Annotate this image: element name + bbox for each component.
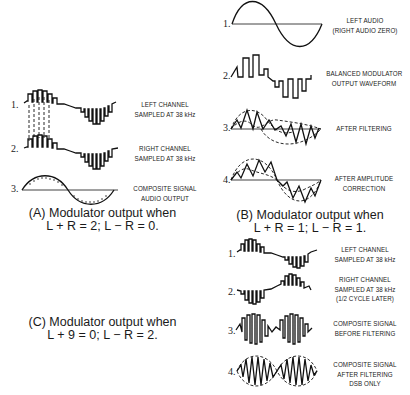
panel-c-row-2-label: RIGHT CHANNEL SAMPLED AT 38 kHz (1/2 CYC… <box>328 275 402 304</box>
panel-a-row-3-label: COMPOSITE SIGNAL AUDIO OUTPUT <box>128 184 202 203</box>
panel-b-amplitude-corrected-waveform <box>231 158 331 208</box>
panel-b-row-1-label-line2: (RIGHT AUDIO ZERO) <box>328 26 402 36</box>
panel-b-row-4-number: 4. <box>223 174 231 185</box>
panel-b-row-4-label-line2: CORRECTION <box>326 184 401 194</box>
panel-c-row-3-label-line2: BEFORE FILTERING <box>328 329 402 339</box>
panel-a-row-3-number: 3. <box>11 183 19 194</box>
panel-b-left-audio-waveform <box>232 0 332 50</box>
panel-c-row-4-label-line2: AFTER FILTERING <box>328 370 402 380</box>
panel-a-caption-line2: L + R = 2; L − R = 0. <box>0 220 205 233</box>
panel-a-row-3-label-line1: COMPOSITE SIGNAL <box>128 184 202 194</box>
panel-b-row-2-label-line1: BALANCED MODULATOR <box>326 69 401 79</box>
panel-b-caption: (B) Modulator output when L + R = 1; L −… <box>220 209 400 235</box>
panel-c-row-1-number: 1. <box>228 248 236 259</box>
panel-a-row-2-label: RIGHT CHANNEL SAMPLED AT 38 kHz <box>128 144 202 163</box>
panel-c-row-2-label-line3: (1/2 CYCLE LATER) <box>328 294 402 304</box>
panel-b-after-filtering-waveform <box>231 108 331 158</box>
panel-b-row-2-label-line2: OUTPUT WAVEFORM <box>326 79 401 89</box>
panel-c-row-3-label-line1: COMPOSITE SIGNAL <box>328 319 402 329</box>
panel-c-composite-after-filtering-waveform <box>237 355 337 395</box>
panel-c-left-channel-waveform <box>237 238 337 268</box>
panel-a-row-2-label-line2: SAMPLED AT 38 kHz <box>128 154 202 164</box>
panel-c-caption: (C) Modulator output when L + 9 = 0; L −… <box>0 316 205 342</box>
panel-b-row-4-label: AFTER AMPLITUDE CORRECTION <box>326 174 401 193</box>
panel-b-row-4-label-line1: AFTER AMPLITUDE <box>326 174 401 184</box>
panel-c-row-1-label: LEFT CHANNEL SAMPLED AT 38 kHz <box>328 245 402 264</box>
panel-c-row-2-number: 2. <box>228 286 236 297</box>
panel-b-row-3-number: 3. <box>223 122 231 133</box>
panel-b-caption-line2: L + R = 1; L − R = 1. <box>220 222 400 235</box>
panel-c-caption-line2: L + 9 = 0; L − R = 2. <box>0 329 205 342</box>
panel-c-row-4-number: 4. <box>228 366 236 377</box>
panel-c-composite-before-filtering-waveform <box>236 314 336 354</box>
panel-a-row-2-number: 2. <box>11 143 19 154</box>
panel-c-row-1-label-line2: SAMPLED AT 38 kHz <box>328 255 402 265</box>
panel-b-balanced-modulator-waveform <box>231 55 331 105</box>
panel-c-row-4-label: COMPOSITE SIGNAL AFTER FILTERING DSB ONL… <box>328 360 402 389</box>
panel-a-row-1-label-line1: LEFT CHANNEL <box>128 100 202 110</box>
panel-b-row-1-number: 1. <box>223 18 231 29</box>
panel-a-row-1-label: LEFT CHANNEL SAMPLED AT 38 kHz <box>128 100 202 119</box>
panel-a-row-2-label-line1: RIGHT CHANNEL <box>128 144 202 154</box>
panel-a-right-channel-waveform <box>24 132 134 172</box>
panel-c-row-3-label: COMPOSITE SIGNAL BEFORE FILTERING <box>328 319 402 338</box>
panel-a-row-3-label-line2: AUDIO OUTPUT <box>128 194 202 204</box>
panel-c-row-4-label-line3: DSB ONLY <box>328 379 402 389</box>
panel-c-row-2-label-line1: RIGHT CHANNEL <box>328 275 402 285</box>
panel-a-caption: (A) Modulator output when L + R = 2; L −… <box>0 207 205 233</box>
panel-b-row-1-label: LEFT AUDIO (RIGHT AUDIO ZERO) <box>328 16 402 35</box>
panel-c-right-channel-waveform <box>237 278 337 308</box>
panel-a-row-1-number: 1. <box>11 99 19 110</box>
panel-c-row-4-label-line1: COMPOSITE SIGNAL <box>328 360 402 370</box>
panel-b-row-2-label: BALANCED MODULATOR OUTPUT WAVEFORM <box>326 69 401 88</box>
panel-c-row-2-label-line2: SAMPLED AT 38 kHz <box>328 285 402 295</box>
panel-b-row-1-label-line1: LEFT AUDIO <box>328 16 402 26</box>
panel-b-row-3-label: AFTER FILTERING <box>326 124 401 134</box>
panel-c-row-1-label-line1: LEFT CHANNEL <box>328 245 402 255</box>
panel-b-row-3-label-line1: AFTER FILTERING <box>326 124 401 134</box>
panel-b-row-2-number: 2. <box>223 70 231 81</box>
panel-c-row-3-number: 3. <box>228 325 236 336</box>
panel-a-row-1-label-line2: SAMPLED AT 38 kHz <box>128 110 202 120</box>
